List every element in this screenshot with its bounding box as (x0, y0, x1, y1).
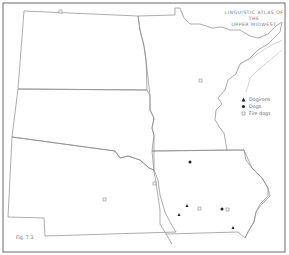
legend-label: Dogirons (249, 96, 270, 103)
open-square-icon (241, 111, 246, 116)
map-frame (3, 3, 285, 252)
map-title-line1: LINGUISTIC ATLAS OF THE (222, 10, 286, 22)
legend: Dogirons Dogs Fire dogs (241, 96, 271, 117)
map (0, 0, 289, 255)
fire-dogs-marker (153, 182, 156, 185)
markers (59, 10, 235, 229)
legend-label: Fire dogs (249, 110, 271, 117)
legend-item-fire-dogs: Fire dogs (241, 110, 271, 117)
state-north-dakota (18, 11, 147, 90)
dogirons-marker (178, 213, 181, 216)
filled-circle-icon (241, 104, 246, 109)
figure-label: Fig. 7.3 (16, 235, 33, 240)
fire-dogs-marker (199, 79, 202, 82)
legend-item-dogirons: Dogirons (241, 96, 271, 103)
fire-dogs-marker (226, 208, 229, 211)
fire-dogs-marker (103, 198, 106, 201)
state-minnesota (138, 8, 282, 151)
legend-item-dogs: Dogs (241, 103, 271, 110)
state-iowa (152, 150, 268, 238)
wisconsin-iowa-border (227, 150, 270, 238)
triangle-icon (241, 97, 246, 102)
legend-label: Dogs (249, 103, 261, 110)
fire-dogs-marker (59, 10, 62, 13)
dogirons-marker (232, 226, 235, 229)
fire-dogs-marker (198, 207, 201, 210)
map-title: LINGUISTIC ATLAS OF THE UPPER MIDWEST (222, 10, 286, 28)
map-title-line2: UPPER MIDWEST (222, 22, 286, 28)
dogirons-marker (186, 204, 189, 207)
state-nebraska (8, 137, 176, 236)
missouri-border (166, 234, 172, 244)
dogs-marker (221, 208, 224, 211)
dogs-marker (189, 161, 192, 164)
